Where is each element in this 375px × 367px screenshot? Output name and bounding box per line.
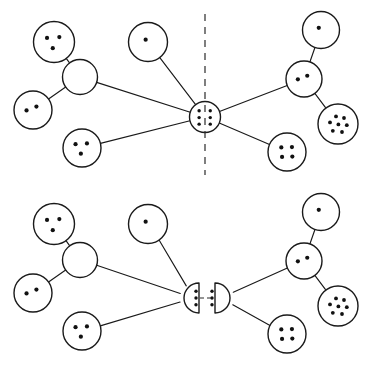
node-dot: [194, 303, 197, 306]
node-u-ne-leaf: [303, 12, 340, 49]
node-dot: [317, 208, 321, 212]
node-dot: [340, 130, 344, 134]
node-shape-u-w-leaf: [14, 91, 52, 129]
node-dot: [51, 46, 55, 50]
edge-u-sw-leaf-to-hub: [100, 121, 190, 144]
edge-l-e-center-to-l-e-leaf: [315, 275, 326, 290]
node-l-w-leaf: [14, 274, 52, 312]
node-shape-l-sw-leaf: [63, 312, 101, 350]
node-shape-l-w-center: [63, 243, 98, 278]
node-dot: [24, 291, 28, 295]
node-dot: [85, 141, 89, 145]
node-u-w-center: [63, 60, 98, 95]
node-l-nw-leaf: [34, 204, 75, 245]
edge-u-n-leaf-to-hub: [160, 58, 196, 105]
node-dot: [144, 220, 148, 224]
node-u-w-leaf: [14, 91, 52, 129]
node-u-nw-leaf: [34, 22, 75, 63]
node-dot: [197, 122, 200, 125]
node-dot: [194, 296, 197, 299]
node-dot: [144, 38, 148, 42]
node-shape-l-e-center: [286, 243, 322, 279]
edge-u-w-leaf-to-u-w-center: [49, 87, 66, 99]
node-dot: [342, 298, 346, 302]
node-l-se-leaf: [268, 315, 306, 353]
node-dot: [290, 336, 294, 340]
node-split-diagram: [0, 0, 375, 367]
node-dot: [34, 104, 38, 108]
node-dot: [45, 36, 49, 40]
node-dot: [210, 303, 213, 306]
node-u-n-leaf: [129, 23, 168, 62]
edge-u-e-center-to-u-e-leaf: [315, 93, 326, 108]
node-dot: [331, 129, 335, 133]
node-u-e-leaf: [318, 104, 358, 144]
node-dot: [331, 311, 335, 315]
node-dot: [305, 74, 309, 78]
node-dot: [45, 218, 49, 222]
node-dot: [290, 145, 294, 149]
node-dot: [57, 35, 61, 39]
node-shape-u-e-center: [286, 61, 322, 97]
node-dot: [342, 116, 346, 120]
node-shape-u-sw-leaf: [63, 129, 101, 167]
node-dot: [79, 152, 83, 156]
node-dot: [345, 305, 349, 309]
edge-hub-right-half-to-l-se-leaf: [233, 305, 270, 326]
node-dot: [290, 327, 294, 331]
node-dot: [334, 297, 338, 301]
edge-hub-to-u-se-leaf: [219, 123, 269, 144]
node-hub-right-half: [210, 283, 230, 313]
node-shape-l-ne-leaf: [303, 194, 340, 231]
edge-hub-to-u-e-center: [219, 85, 287, 111]
node-dot: [197, 109, 200, 112]
node-shape-l-w-leaf: [14, 274, 52, 312]
node-shape-hub-right-half: [215, 283, 230, 313]
node-shape-l-n-leaf: [129, 205, 168, 244]
node-dot: [197, 116, 200, 119]
node-dot: [280, 155, 284, 159]
node-dot: [337, 123, 341, 127]
edge-hub-right-half-to-l-e-center: [233, 268, 287, 292]
node-dot: [328, 303, 332, 307]
node-dot: [209, 116, 212, 119]
node-dot: [24, 108, 28, 112]
node-shape-u-n-leaf: [129, 23, 168, 62]
node-shape-l-se-leaf: [268, 315, 306, 353]
node-dot: [34, 287, 38, 291]
node-dot: [334, 115, 338, 119]
edge-u-e-center-to-u-ne-leaf: [310, 47, 315, 62]
node-layer: [14, 12, 358, 354]
edge-l-nw-leaf-to-l-w-center: [66, 241, 70, 246]
edge-l-sw-leaf-to-hub-left-half: [100, 302, 180, 326]
node-dot: [209, 109, 212, 112]
node-shape-l-nw-leaf: [34, 204, 75, 245]
node-dot: [73, 142, 77, 146]
node-dot: [340, 312, 344, 316]
edge-l-w-leaf-to-l-w-center: [49, 270, 66, 282]
divider-layer: [200, 14, 214, 298]
node-shape-u-w-center: [63, 60, 98, 95]
diagram-figure: [0, 0, 375, 367]
node-shape-u-nw-leaf: [34, 22, 75, 63]
node-dot: [317, 26, 321, 30]
node-dot: [210, 290, 213, 293]
node-dot: [305, 256, 309, 260]
edge-l-e-center-to-l-ne-leaf: [310, 229, 315, 244]
node-dot: [280, 337, 284, 341]
node-dot: [194, 290, 197, 293]
node-dot: [51, 228, 55, 232]
node-dot: [85, 324, 89, 328]
node-dot: [279, 145, 283, 149]
node-l-e-center: [286, 243, 322, 279]
node-l-w-center: [63, 243, 98, 278]
node-dot: [279, 327, 283, 331]
node-l-e-leaf: [318, 286, 358, 326]
node-shape-u-ne-leaf: [303, 12, 340, 49]
edge-l-n-leaf-to-hub-left-half: [159, 240, 186, 286]
node-dot: [290, 154, 294, 158]
node-u-se-leaf: [268, 133, 306, 171]
node-dot: [337, 305, 341, 309]
node-dot: [296, 259, 300, 263]
node-hub-left-half: [184, 283, 199, 313]
